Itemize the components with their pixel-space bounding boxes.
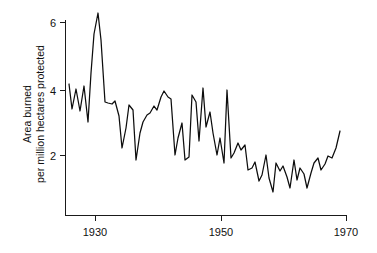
y-axis-title-line-1: Area burned: [21, 85, 33, 143]
x-tick-label-1930: 1930: [83, 226, 107, 238]
y-axis-title-line-2: per million hectares protected: [34, 45, 46, 183]
y-tick-label-6: 6: [50, 17, 56, 29]
chart-figure: 6 4 2 1930 1950 1970 Area burned per mil…: [0, 0, 377, 253]
line-chart-plot: 6 4 2 1930 1950 1970 Area burned per mil…: [0, 0, 377, 253]
y-tick-label-4: 4: [50, 85, 56, 97]
y-tick-label-2: 2: [50, 150, 56, 162]
x-tick-label-1950: 1950: [209, 226, 233, 238]
data-series-line: [69, 13, 340, 192]
x-tick-label-1970: 1970: [334, 226, 358, 238]
